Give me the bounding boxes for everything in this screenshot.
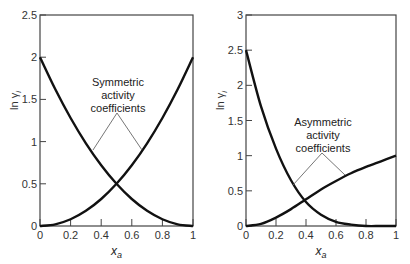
x-axis-label: xa — [110, 244, 122, 260]
annotation-text: activity — [101, 89, 135, 101]
chart-panel-2: 00.511.522.5300.20.40.60.81ln γixaAsymme… — [214, 9, 399, 260]
annotation-pointer — [293, 153, 322, 185]
y-tick-label: 1.5 — [22, 93, 37, 105]
annotation-text: coefficients — [91, 102, 146, 114]
activity-coefficient-charts: 00.511.522.500.20.40.60.81ln γixaSymmetr… — [0, 0, 410, 264]
annotation-text: Symmetric — [92, 76, 144, 88]
y-tick-label: 1.5 — [228, 115, 243, 127]
y-tick-label: 2 — [31, 51, 37, 63]
annotation-text: Asymmetric — [294, 116, 352, 128]
x-tick-label: 1 — [190, 229, 196, 241]
x-tick-label: 0 — [243, 229, 249, 241]
x-tick-label: 0.8 — [358, 229, 373, 241]
x-tick-label: 0.4 — [298, 229, 313, 241]
y-tick-label: 1 — [237, 150, 243, 162]
y-tick-label: 2.5 — [22, 9, 37, 21]
x-tick-label: 1 — [393, 229, 399, 241]
plot-frame — [40, 15, 193, 226]
x-tick-label: 0.6 — [328, 229, 343, 241]
annotation-pointer — [117, 113, 142, 150]
x-tick-label: 0.2 — [268, 229, 283, 241]
y-tick-label: 0.5 — [228, 185, 243, 197]
y-tick-label: 2.5 — [228, 44, 243, 56]
x-tick-label: 0.8 — [155, 229, 170, 241]
annotation-pointer — [322, 153, 345, 175]
y-tick-label: 3 — [237, 9, 243, 21]
annotation-pointer — [93, 113, 117, 150]
x-tick-label: 0.4 — [94, 229, 109, 241]
x-axis-label: xa — [314, 244, 326, 260]
annotation-text: coefficients — [296, 142, 351, 154]
y-axis-label: ln γi — [214, 91, 229, 110]
y-tick-label: 2 — [237, 79, 243, 91]
x-tick-label: 0.2 — [63, 229, 78, 241]
y-tick-label: 1 — [31, 136, 37, 148]
y-tick-label: 0.5 — [22, 178, 37, 190]
x-tick-label: 0.6 — [124, 229, 139, 241]
annotation-text: activity — [306, 129, 340, 141]
chart-panel-1: 00.511.522.500.20.40.60.81ln γixaSymmetr… — [8, 9, 196, 260]
x-tick-label: 0 — [37, 229, 43, 241]
